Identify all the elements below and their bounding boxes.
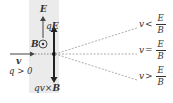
outcome-lhs: v bbox=[139, 71, 144, 81]
outcome-lhs: v bbox=[139, 19, 144, 29]
denominator: B bbox=[158, 26, 164, 35]
outcome-operator: > bbox=[145, 71, 153, 81]
label-e-field: E bbox=[40, 5, 47, 14]
label-b-field: B bbox=[31, 40, 39, 49]
trajectory-upper bbox=[55, 28, 137, 54]
outcome-slow: v < E B bbox=[139, 14, 166, 35]
denominator: B bbox=[158, 78, 164, 87]
label-b: B bbox=[52, 83, 60, 93]
numerator: E bbox=[158, 14, 164, 23]
outcome-balanced: v = E B bbox=[139, 40, 166, 61]
magnetic-field-out-icon bbox=[39, 40, 47, 48]
numerator: E bbox=[158, 40, 164, 49]
label-qv: qv bbox=[34, 83, 45, 93]
label-qe: qE bbox=[46, 22, 59, 31]
trajectory-lines bbox=[55, 28, 137, 80]
denominator: B bbox=[158, 52, 164, 61]
label-charge-positive: q > 0 bbox=[9, 67, 32, 76]
fraction-e-over-b: E B bbox=[156, 40, 166, 61]
outcome-fast: v > E B bbox=[139, 66, 166, 87]
label-qe-e: E bbox=[52, 21, 59, 31]
outcome-operator: < bbox=[145, 19, 153, 29]
label-magnetic-force: qv×B bbox=[34, 84, 60, 93]
fraction-e-over-b: E B bbox=[156, 66, 166, 87]
outcome-operator: = bbox=[145, 45, 153, 55]
outcome-lhs: v bbox=[139, 45, 144, 55]
label-velocity: v bbox=[16, 57, 21, 66]
numerator: E bbox=[158, 66, 164, 75]
trajectory-lower bbox=[55, 54, 137, 80]
fraction-e-over-b: E B bbox=[156, 14, 166, 35]
